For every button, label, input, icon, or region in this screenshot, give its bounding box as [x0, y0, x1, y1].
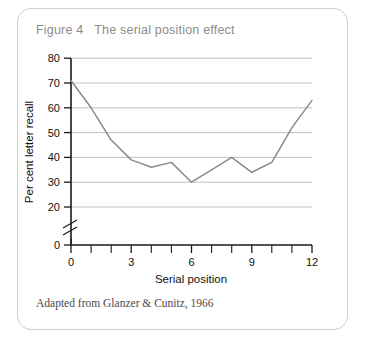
figure-source-caption: Adapted from Glanzer & Cunitz, 1966: [36, 297, 214, 309]
figure-title: Figure 4 The serial position effect: [36, 23, 235, 37]
figure-card: Figure 4 The serial position effect Adap…: [17, 8, 348, 330]
